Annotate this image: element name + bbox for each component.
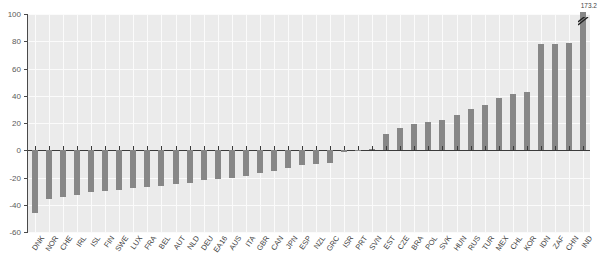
- gridline-vertical: [119, 14, 120, 232]
- y-axis-tick-label: -40: [9, 200, 21, 209]
- bar: [327, 150, 333, 162]
- gridline-vertical: [176, 14, 177, 232]
- x-axis-tick-mark: [316, 146, 317, 150]
- x-axis-tick-label: TUR: [480, 234, 496, 252]
- x-axis-tick-label: DNK: [30, 234, 46, 252]
- gridline-vertical: [260, 14, 261, 232]
- y-axis-tick-label: 100: [8, 10, 21, 19]
- x-axis-tick-mark: [583, 146, 584, 150]
- x-axis-tick-mark: [133, 146, 134, 150]
- x-axis-tick-mark: [344, 146, 345, 150]
- x-axis-tick-label: SVK: [438, 234, 454, 251]
- bar: [510, 94, 516, 150]
- y-axis-tick-label: 20: [12, 119, 21, 128]
- x-axis-tick-mark: [400, 146, 401, 150]
- x-axis-tick-mark: [471, 146, 472, 150]
- zero-baseline: [28, 150, 590, 151]
- bar: [468, 109, 474, 150]
- bar: [313, 150, 319, 164]
- x-axis-tick-label: PRT: [354, 234, 370, 251]
- gridline-vertical: [232, 14, 233, 232]
- x-axis-tick-label: LUX: [129, 234, 145, 251]
- bar: [538, 44, 544, 150]
- bar: [116, 150, 122, 190]
- x-axis-tick-label: EST: [382, 234, 398, 251]
- x-axis-tick-label: BEL: [157, 234, 173, 251]
- y-axis-tick-label: 60: [12, 64, 21, 73]
- gridline-vertical: [344, 14, 345, 232]
- x-axis-tick-label: FRA: [143, 234, 159, 251]
- gridline-horizontal: [28, 14, 590, 15]
- x-axis-labels: DNKNORCHEIRLISLFINSWELUXFRABELAUTNLDDEUE…: [28, 232, 590, 259]
- x-axis-tick-mark: [372, 146, 373, 150]
- x-axis-tick-mark: [527, 146, 528, 150]
- bar: [229, 150, 235, 177]
- x-axis-tick-mark: [288, 146, 289, 150]
- x-axis-tick-label: AUT: [171, 234, 187, 251]
- x-axis-tick-label: SVN: [367, 234, 383, 252]
- bar: [74, 150, 80, 195]
- x-axis-tick-label: GRC: [324, 234, 341, 253]
- x-axis-tick-mark: [246, 146, 247, 150]
- bar: [524, 92, 530, 151]
- gridline-horizontal: [28, 205, 590, 206]
- gridline-vertical: [316, 14, 317, 232]
- x-axis-tick-label: EA16: [211, 234, 229, 254]
- gridline-horizontal: [28, 96, 590, 97]
- y-axis-tick-label: 0: [17, 146, 21, 155]
- x-axis-tick-mark: [274, 146, 275, 150]
- x-axis-tick-mark: [414, 146, 415, 150]
- x-axis-tick-label: CHE: [58, 234, 74, 252]
- bar: [285, 150, 291, 168]
- bar: [144, 150, 150, 187]
- gridline-vertical: [63, 14, 64, 232]
- gridline-vertical: [302, 14, 303, 232]
- plot-area: [28, 14, 590, 232]
- bar: [299, 150, 305, 165]
- y-axis-tick-label: 40: [12, 91, 21, 100]
- bar: [60, 150, 66, 196]
- bar: [482, 105, 488, 150]
- x-axis-tick-label: HUN: [451, 234, 468, 252]
- x-axis-tick-mark: [428, 146, 429, 150]
- gridline-horizontal: [28, 178, 590, 179]
- bar: [46, 150, 52, 199]
- x-axis-tick-mark: [457, 146, 458, 150]
- x-axis-tick-label: SWE: [114, 234, 131, 253]
- x-axis-tick-label: NOR: [43, 234, 60, 253]
- x-axis-tick-label: AUS: [227, 234, 243, 252]
- bar: [130, 150, 136, 188]
- x-axis-tick-mark: [232, 146, 233, 150]
- x-axis-tick-label: ESP: [297, 234, 313, 251]
- bar: [341, 150, 347, 151]
- gridline-vertical: [372, 14, 373, 232]
- x-axis-tick-label: CZE: [396, 234, 412, 251]
- bar: [32, 150, 38, 213]
- x-axis-tick-label: IRL: [74, 234, 88, 249]
- x-axis-tick-mark: [77, 146, 78, 150]
- gridline-horizontal: [28, 123, 590, 124]
- bar: [201, 150, 207, 180]
- x-axis-tick-mark: [485, 146, 486, 150]
- gridline-vertical: [400, 14, 401, 232]
- bar: [88, 150, 94, 192]
- x-axis-tick-mark: [541, 146, 542, 150]
- x-axis-tick-label: ZAF: [551, 234, 567, 251]
- x-axis-tick-mark: [176, 146, 177, 150]
- x-axis-tick-mark: [218, 146, 219, 150]
- y-axis-tick-label: -20: [9, 173, 21, 182]
- gridline-vertical: [288, 14, 289, 232]
- bar: [566, 43, 572, 151]
- x-axis-tick-label: NLD: [185, 234, 201, 251]
- y-axis: 100806040200-20-40-60: [0, 0, 28, 259]
- x-axis-tick-mark: [35, 146, 36, 150]
- bar: [215, 150, 221, 179]
- x-axis-tick-mark: [330, 146, 331, 150]
- gridline-vertical: [77, 14, 78, 232]
- x-axis-tick-label: BRA: [410, 234, 426, 252]
- x-axis-tick-label: RUS: [465, 234, 481, 252]
- x-axis-tick-mark: [499, 146, 500, 150]
- gridline-vertical: [386, 14, 387, 232]
- gridline-vertical: [218, 14, 219, 232]
- gridline-vertical: [274, 14, 275, 232]
